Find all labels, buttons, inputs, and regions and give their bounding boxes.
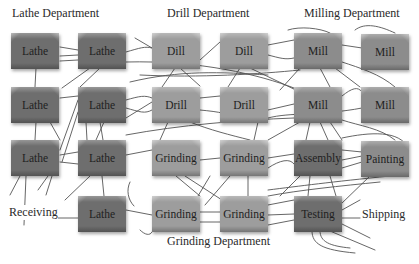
machine-label: Grinding <box>155 152 197 164</box>
machine-label: Drill <box>233 99 255 111</box>
machine-mill-3: Mill <box>294 87 342 123</box>
machine-label: Lathe <box>22 152 48 164</box>
machine-label: Lathe <box>89 208 115 220</box>
functional-layout-diagram: Lathe Department Drill Department Millin… <box>0 0 419 264</box>
machine-lathe-1: Lathe <box>11 33 59 69</box>
machine-label: Mill <box>375 99 395 111</box>
lathe-department-label: Lathe Department <box>12 6 99 21</box>
grinding-department-label: Grinding Department <box>167 234 270 249</box>
machine-label: Lathe <box>22 45 48 57</box>
machine-drill-2: Drill <box>220 87 268 123</box>
material-flow-lines <box>0 0 419 264</box>
machine-testing: Testing <box>294 196 342 232</box>
machine-grinding-2: Grinding <box>220 140 268 176</box>
machine-dill-2: Dill <box>220 33 268 69</box>
machine-label: Grinding <box>223 152 265 164</box>
machine-label: Lathe <box>89 99 115 111</box>
machine-mill-4: Mill <box>361 87 409 123</box>
machine-lathe-3: Lathe <box>11 87 59 123</box>
machine-grinding-4: Grinding <box>220 196 268 232</box>
machine-label: Lathe <box>89 45 115 57</box>
machine-label: Drill <box>165 99 187 111</box>
machine-mill-1: Mill <box>294 33 342 69</box>
shipping-label: Shipping <box>362 207 405 222</box>
machine-painting: Painting <box>361 141 409 177</box>
machine-label: Grinding <box>155 208 197 220</box>
receiving-label: Receiving <box>9 205 58 220</box>
milling-department-label: Milling Department <box>304 6 400 21</box>
machine-lathe-5: Lathe <box>11 140 59 176</box>
machine-mill-2: Mill <box>361 34 409 70</box>
machine-label: Lathe <box>89 152 115 164</box>
machine-label: Dill <box>167 45 185 57</box>
machine-lathe-6: Lathe <box>78 140 126 176</box>
machine-drill-1: Drill <box>152 87 200 123</box>
machine-lathe-2: Lathe <box>78 33 126 69</box>
machine-grinding-3: Grinding <box>152 196 200 232</box>
machine-label: Testing <box>301 208 335 220</box>
machine-lathe-4: Lathe <box>78 87 126 123</box>
machine-dill-1: Dill <box>152 33 200 69</box>
machine-lathe-7: Lathe <box>78 196 126 232</box>
machine-label: Mill <box>308 45 328 57</box>
machine-label: Painting <box>366 153 404 165</box>
machine-label: Mill <box>308 99 328 111</box>
machine-label: Lathe <box>22 99 48 111</box>
machine-label: Mill <box>375 46 395 58</box>
machine-label: Dill <box>235 45 253 57</box>
drill-department-label: Drill Department <box>167 6 249 21</box>
machine-label: Assembly <box>295 152 341 164</box>
machine-assembly: Assembly <box>294 140 342 176</box>
machine-label: Grinding <box>223 208 265 220</box>
machine-grinding-1: Grinding <box>152 140 200 176</box>
